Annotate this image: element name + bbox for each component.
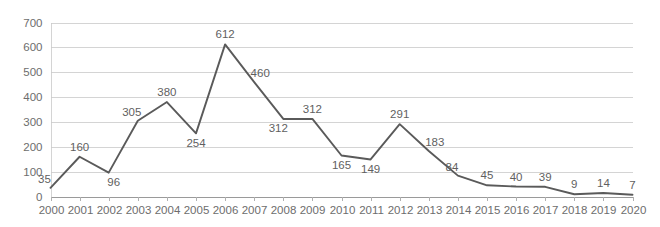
data-label-2011: 149 [361, 163, 380, 175]
x-axis-tick-labels: 2000200120022003200420052006200720082009… [39, 204, 647, 216]
y-tick-label-600: 600 [23, 41, 42, 53]
chart-background [0, 0, 660, 227]
x-tick-label-2007: 2007 [242, 204, 268, 216]
x-tick-label-2004: 2004 [155, 204, 181, 216]
data-label-2004: 380 [157, 86, 176, 98]
data-label-2008: 312 [269, 122, 288, 134]
data-label-2012: 291 [390, 108, 409, 120]
data-label-2017: 39 [539, 171, 552, 183]
y-tick-label-700: 700 [23, 17, 42, 29]
data-label-2019: 14 [597, 177, 610, 189]
x-tick-label-2013: 2013 [417, 204, 443, 216]
x-tick-label-2005: 2005 [184, 204, 210, 216]
x-tick-label-2000: 2000 [39, 204, 65, 216]
chart-canvas: 0100200300400500600700 20002001200220032… [0, 0, 660, 227]
x-tick-label-2008: 2008 [271, 204, 297, 216]
data-label-2002: 96 [107, 176, 120, 188]
x-tick-label-2001: 2001 [68, 204, 94, 216]
y-tick-label-0: 0 [36, 191, 42, 203]
y-tick-label-400: 400 [23, 91, 42, 103]
x-tick-label-2019: 2019 [591, 204, 617, 216]
y-tick-label-300: 300 [23, 116, 42, 128]
data-label-2003: 305 [122, 106, 141, 118]
x-tick-label-2011: 2011 [359, 204, 384, 216]
x-tick-label-2018: 2018 [562, 204, 588, 216]
data-label-2016: 40 [510, 171, 523, 183]
data-label-2018: 9 [571, 178, 577, 190]
x-tick-label-2006: 2006 [213, 204, 239, 216]
x-tick-label-2010: 2010 [330, 204, 356, 216]
y-tick-label-500: 500 [23, 66, 42, 78]
data-label-2000: 35 [38, 173, 51, 185]
data-label-2014: 84 [446, 161, 459, 173]
data-label-2009: 312 [303, 103, 322, 115]
x-tick-label-2014: 2014 [446, 204, 472, 216]
data-label-2007: 460 [251, 67, 270, 79]
data-label-2005: 254 [186, 137, 206, 149]
x-tick-label-2003: 2003 [126, 204, 152, 216]
data-label-2001: 160 [70, 141, 89, 153]
x-tick-label-2015: 2015 [475, 204, 501, 216]
x-tick-label-2009: 2009 [300, 204, 326, 216]
x-tick-label-2002: 2002 [97, 204, 123, 216]
data-label-2015: 45 [481, 169, 494, 181]
x-tick-label-2012: 2012 [388, 204, 414, 216]
data-label-2010: 165 [332, 159, 351, 171]
x-tick-label-2016: 2016 [504, 204, 530, 216]
y-tick-label-200: 200 [23, 141, 42, 153]
data-label-2013: 183 [425, 136, 444, 148]
x-tick-label-2020: 2020 [621, 204, 647, 216]
line-chart: 0100200300400500600700 20002001200220032… [0, 0, 660, 227]
data-label-2006: 612 [216, 28, 235, 40]
data-label-2020: 7 [629, 179, 635, 191]
x-tick-label-2017: 2017 [533, 204, 559, 216]
